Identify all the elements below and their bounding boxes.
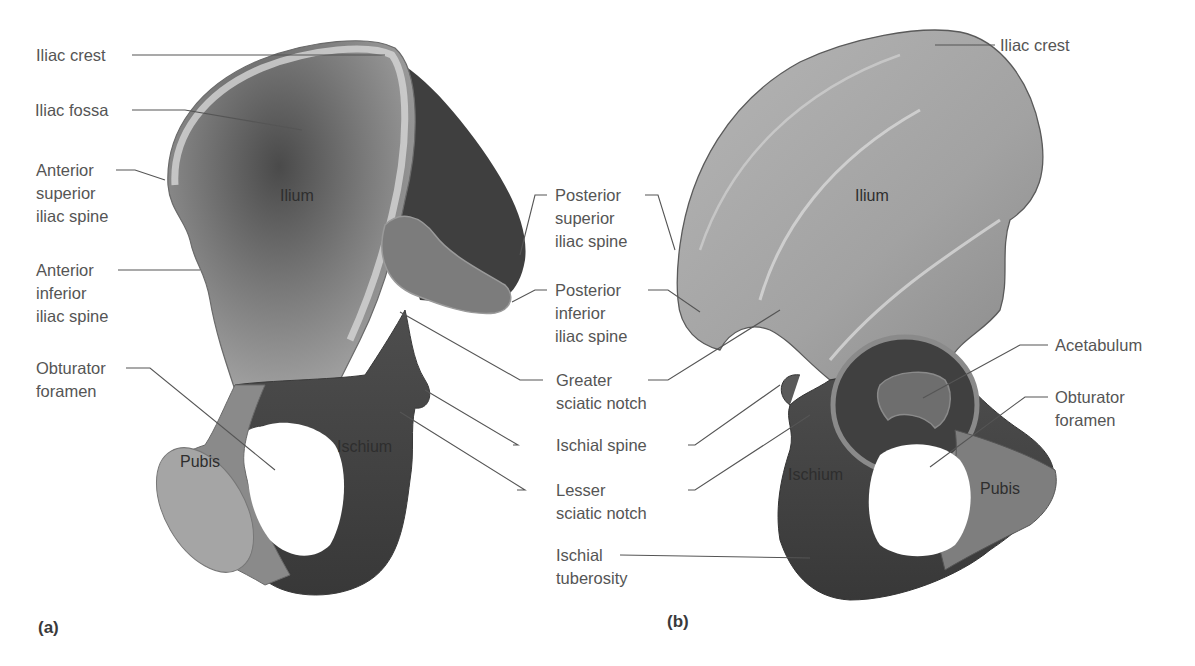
callout-iliac-fossa: Iliac fossa — [35, 99, 108, 122]
region-label-ilium-b: Ilium — [855, 187, 889, 205]
leader-ischial-tuberosity — [620, 555, 810, 558]
callout-psis: Posterior superior iliac spine — [555, 184, 627, 253]
region-label-ilium-a: Ilium — [280, 187, 314, 205]
panel-a-bone — [136, 41, 525, 595]
callout-obturator-foramen-a: Obturator foramen — [36, 357, 106, 403]
callout-ischial-tuberosity: Ischial tuberosity — [556, 544, 628, 590]
leader-piis-a — [512, 290, 547, 302]
region-label-pubis-a: Pubis — [180, 453, 220, 471]
panel-b-bone — [677, 30, 1056, 600]
callout-greater-sciatic-notch: Greater sciatic notch — [556, 369, 647, 415]
callout-iliac-crest-b: Iliac crest — [1000, 34, 1070, 57]
panel-label-a: (a) — [38, 618, 59, 638]
region-label-ischium-b: Ischium — [788, 466, 843, 484]
callout-obturator-foramen-b: Obturator foramen — [1055, 386, 1125, 432]
leader-gsn-a — [400, 312, 543, 380]
region-label-pubis-b: Pubis — [980, 480, 1020, 498]
leader-ischial-spine-b — [688, 385, 780, 445]
callout-lesser-sciatic-notch: Lesser sciatic notch — [556, 479, 647, 525]
callout-piis: Posterior inferior iliac spine — [555, 279, 627, 348]
callout-asis: Anterior superior iliac spine — [36, 159, 108, 228]
leader-psis-b — [645, 195, 675, 250]
callout-ischial-spine: Ischial spine — [556, 434, 647, 457]
region-label-ischium-a: Ischium — [337, 438, 392, 456]
callout-acetabulum: Acetabulum — [1055, 334, 1142, 357]
leader-lsn-a — [400, 412, 525, 490]
hip-bone-diagram: Ilium Ischium Pubis Ilium Ischium Pubis … — [0, 0, 1195, 666]
panel-label-b: (b) — [667, 612, 689, 632]
callout-aiis: Anterior inferior iliac spine — [36, 259, 108, 328]
leader-asis — [116, 170, 165, 180]
callout-iliac-crest-a: Iliac crest — [36, 44, 106, 67]
obturator-foramen-b — [869, 444, 971, 556]
